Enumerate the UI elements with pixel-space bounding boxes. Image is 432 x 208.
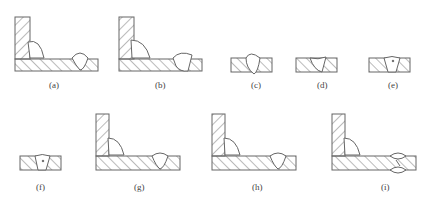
figure-g xyxy=(96,114,180,170)
caption-a: (a) xyxy=(49,80,59,90)
caption-b: (b) xyxy=(155,80,166,90)
figure-f xyxy=(20,155,61,171)
caption-i: (i) xyxy=(381,182,390,192)
figure-c xyxy=(231,54,272,74)
figure-e xyxy=(369,57,410,73)
figure-d xyxy=(296,57,337,72)
figure-b xyxy=(119,17,202,71)
caption-g: (g) xyxy=(134,182,145,192)
caption-h: (h) xyxy=(252,182,263,192)
caption-c: (c) xyxy=(251,80,261,90)
caption-d: (d) xyxy=(317,80,328,90)
caption-f: (f) xyxy=(36,182,45,192)
figure-h xyxy=(212,114,296,170)
caption-e: (e) xyxy=(388,80,398,90)
figure-a xyxy=(15,17,98,71)
weld-diagram xyxy=(0,0,432,208)
figure-i xyxy=(332,114,416,173)
